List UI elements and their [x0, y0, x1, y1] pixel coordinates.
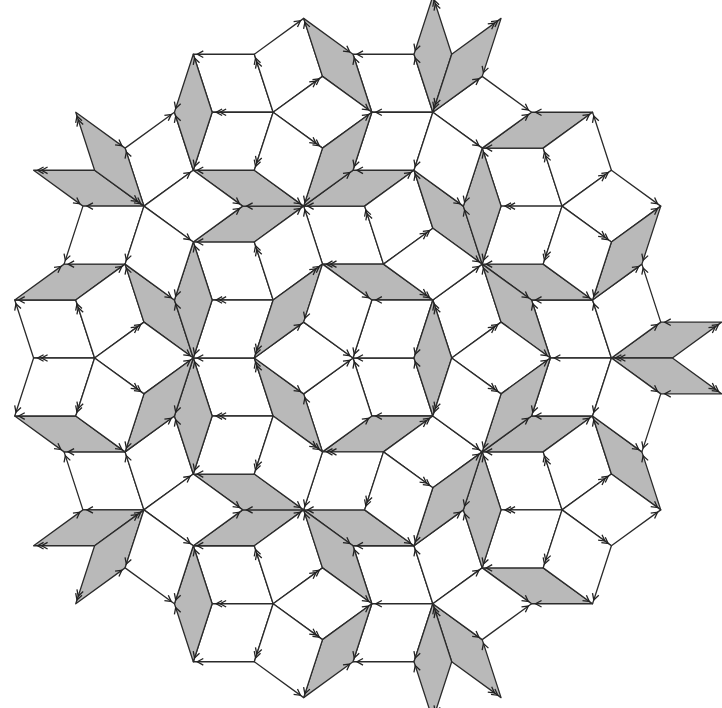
tiling-canvas	[0, 0, 722, 708]
penrose-tiling-diagram	[0, 0, 722, 708]
